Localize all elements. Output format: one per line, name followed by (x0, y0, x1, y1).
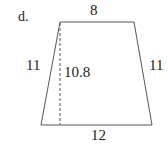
problem-label: d. (18, 10, 29, 24)
trapezoid-outline (41, 22, 152, 125)
top-base-label: 8 (90, 3, 98, 18)
trapezoid-figure: d. 8 11 10.8 11 12 (0, 0, 168, 148)
left-side-label: 11 (26, 58, 40, 73)
right-side-label: 11 (149, 58, 163, 73)
height-label: 10.8 (64, 65, 90, 80)
bottom-base-label: 12 (91, 128, 106, 143)
